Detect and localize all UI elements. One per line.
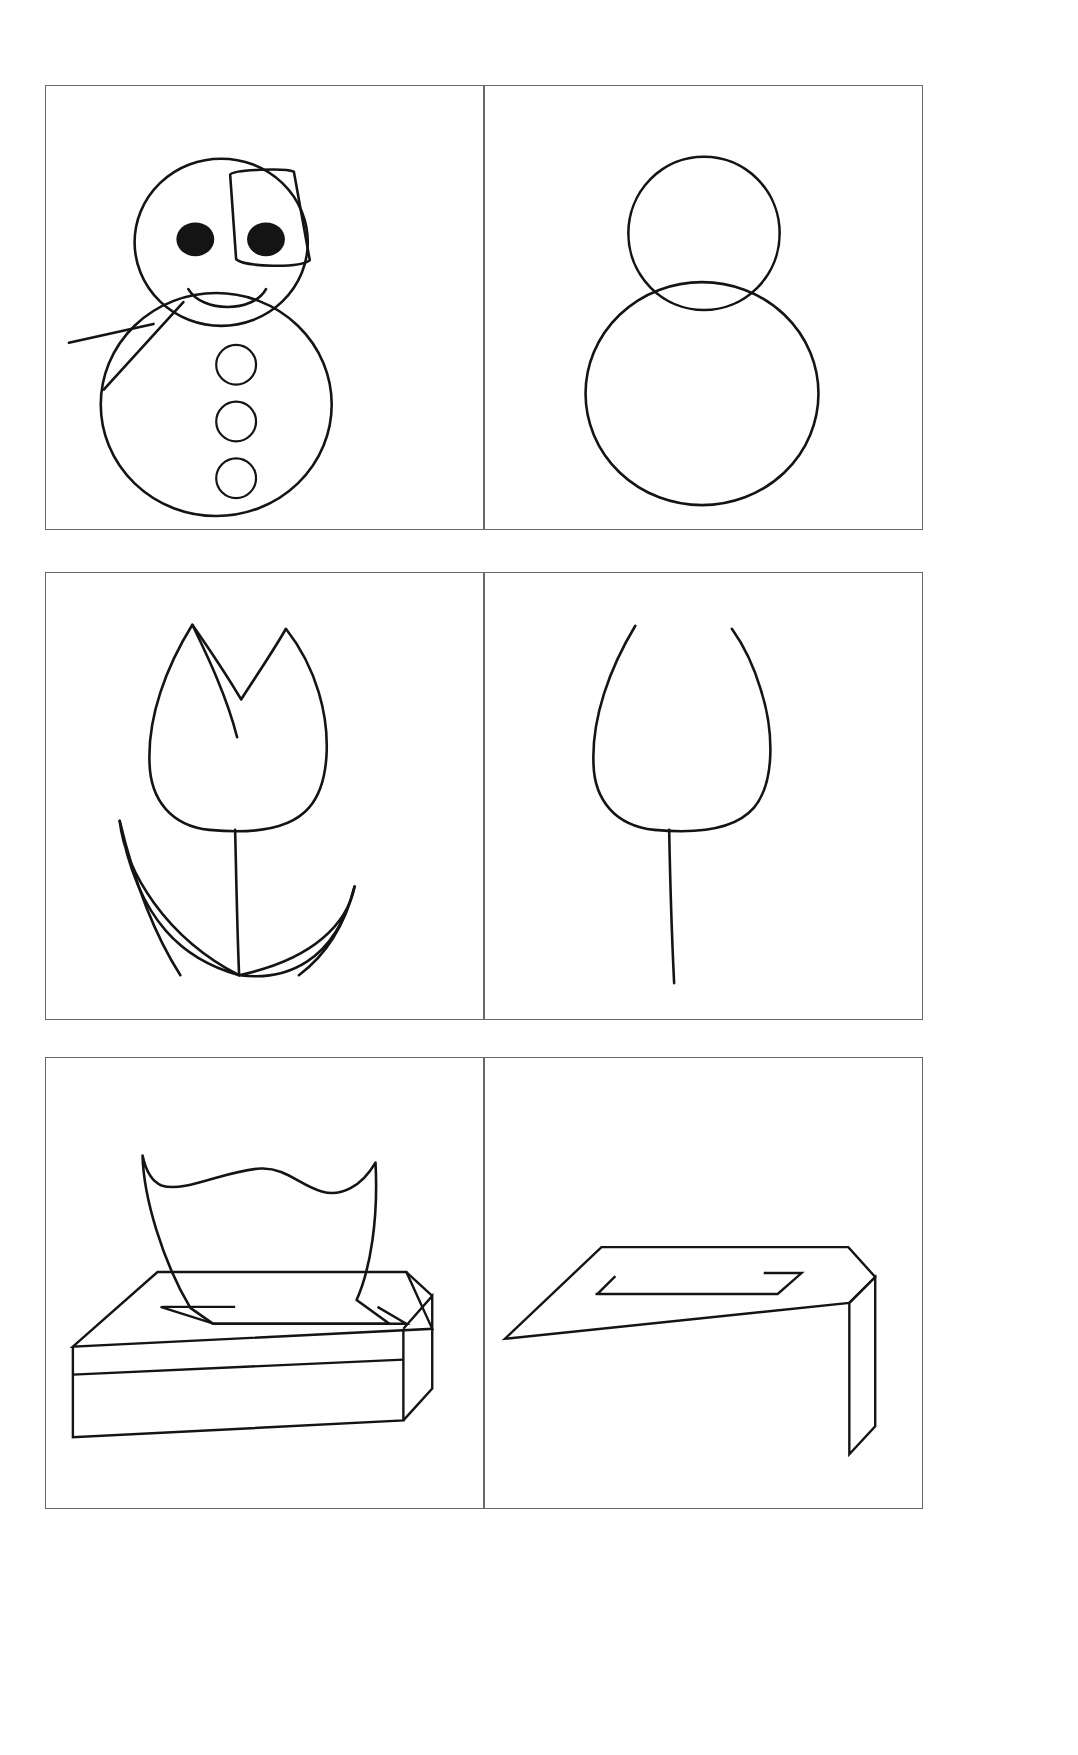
band-line [73, 1360, 403, 1375]
box-top-right-edge [406, 1272, 432, 1296]
panel-snowman-complete[interactable] [45, 85, 484, 530]
panel-tissue-box-outline[interactable] [484, 1057, 923, 1509]
snowman-buttons-group [46, 86, 483, 529]
bloom [149, 625, 326, 831]
panel-snowman-outline[interactable] [484, 85, 923, 530]
button-bottom [216, 458, 256, 498]
left-leaf [120, 821, 239, 975]
panel-tissue-box-complete[interactable] [45, 1057, 484, 1509]
panel-tulip-complete[interactable] [45, 572, 484, 1020]
body-circle [586, 282, 819, 505]
tissue-sheet-outline [143, 1156, 390, 1324]
box-side-face [849, 1277, 875, 1454]
stem [235, 830, 239, 975]
tulip-complete-drawing [46, 573, 483, 1019]
snowman-row [45, 85, 923, 530]
worksheet-sheet [0, 0, 1078, 1755]
tulip-outline-drawing [485, 573, 922, 1019]
tissue-box-row [45, 1057, 923, 1509]
tissue-box-complete-drawing [46, 1058, 483, 1508]
panel-tulip-outline[interactable] [484, 572, 923, 1020]
stem [669, 830, 674, 983]
bloom [593, 626, 770, 831]
box-slot [595, 1273, 801, 1294]
head-circle [628, 157, 779, 310]
tissue-box-outline-drawing [485, 1058, 922, 1508]
box-side-face [403, 1296, 432, 1420]
tulip-row [45, 572, 923, 1020]
button-middle [216, 402, 256, 442]
button-top [216, 345, 256, 385]
snowman-outline-drawing [485, 86, 922, 529]
box-top-face [73, 1272, 432, 1347]
